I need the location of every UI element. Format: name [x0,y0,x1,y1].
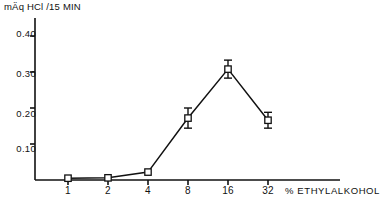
axis-lines [35,18,340,180]
data-markers [65,66,271,181]
data-point-16 [225,66,231,72]
data-point-32 [265,117,271,123]
data-point-1 [65,175,71,181]
data-point-4 [145,169,151,175]
data-line [68,69,268,178]
data-point-8 [185,115,191,121]
data-point-2 [105,175,111,181]
